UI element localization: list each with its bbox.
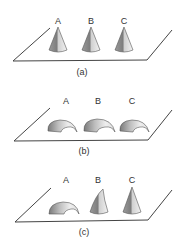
object-label: A [63, 175, 69, 185]
object-label: C [129, 175, 136, 185]
cone-shape [49, 27, 67, 52]
cone-shape [82, 27, 100, 52]
object-label: B [95, 175, 101, 185]
panel-caption: (a) [77, 67, 88, 77]
object-label: A [55, 16, 61, 26]
cone-shape [115, 27, 133, 52]
object-label: A [63, 96, 69, 106]
panel-b: A B C (b) [14, 96, 172, 156]
hook-shape [49, 202, 79, 214]
object-label: B [88, 16, 94, 26]
object-label: C [129, 96, 136, 106]
hook-shape [48, 120, 77, 132]
object-label: C [121, 16, 128, 26]
cone-shape [123, 187, 141, 214]
panel-a: A B C (a) [13, 16, 172, 77]
panel-c: A B C (c) [15, 175, 172, 237]
panel-caption: (c) [79, 227, 90, 237]
three-panel-shape-diagram: A B C (a) A B C (b) A B C [0, 0, 186, 243]
hook-shape [120, 120, 149, 132]
hook-shape [84, 119, 115, 132]
panel-caption: (b) [79, 146, 90, 156]
bent-cone-shape [90, 189, 108, 214]
object-label: B [95, 96, 101, 106]
